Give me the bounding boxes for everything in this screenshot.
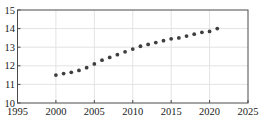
x-tick-label: 2015 — [161, 106, 182, 117]
data-point — [77, 69, 81, 73]
data-point — [177, 36, 181, 40]
data-point — [192, 32, 196, 36]
plot-canvas: 1011121314151995200020052010201520202025 — [0, 0, 262, 121]
x-tick-label: 2025 — [238, 106, 259, 117]
data-point — [154, 41, 158, 45]
data-point — [92, 62, 96, 66]
y-tick-label: 13 — [5, 42, 16, 53]
data-point — [215, 27, 219, 31]
data-point — [169, 37, 173, 41]
data-point — [62, 72, 66, 76]
y-tick-label: 12 — [5, 60, 16, 71]
data-point — [131, 47, 135, 51]
data-point — [200, 30, 204, 34]
x-tick-label: 2000 — [45, 106, 66, 117]
data-point — [123, 50, 127, 54]
y-tick-label: 14 — [5, 23, 16, 34]
x-tick-label: 2020 — [199, 106, 220, 117]
data-point — [139, 44, 143, 48]
data-point — [146, 43, 150, 47]
x-tick-label: 2010 — [122, 106, 143, 117]
data-point — [115, 53, 119, 57]
data-point — [54, 73, 58, 77]
data-point — [100, 58, 104, 62]
data-point — [162, 39, 166, 43]
data-point — [69, 70, 73, 74]
x-tick-label: 1995 — [7, 106, 28, 117]
data-point — [185, 34, 189, 38]
scatter-chart: 1011121314151995200020052010201520202025 — [0, 0, 262, 121]
data-point — [208, 29, 212, 33]
y-tick-label: 15 — [5, 5, 16, 16]
y-tick-label: 11 — [5, 79, 15, 90]
data-point — [85, 66, 89, 70]
x-tick-label: 2005 — [84, 106, 105, 117]
data-point — [108, 56, 112, 60]
